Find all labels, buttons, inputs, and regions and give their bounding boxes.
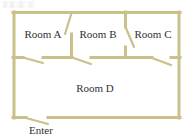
door-leaf-a-b [65,13,72,34]
room-label-c: Room C [135,28,172,40]
entrance-label: Enter [29,124,53,136]
room-label-d: Room D [76,82,114,94]
room-labels: Room A Room B Room C Room D Enter [25,28,172,136]
room-label-a: Room A [25,28,62,40]
room-label-b: Room B [80,28,117,40]
floor-plan-canvas: Room A Room B Room C Room D Enter [0,0,191,139]
door-leaf-c-d [152,58,171,65]
door-leaf-b-c [126,27,135,47]
door-leaf-a-d [23,58,43,64]
door-leaf-b-d [72,58,91,65]
floor-plan-figure: Room A Room B Room C Room D Enter [0,0,191,139]
